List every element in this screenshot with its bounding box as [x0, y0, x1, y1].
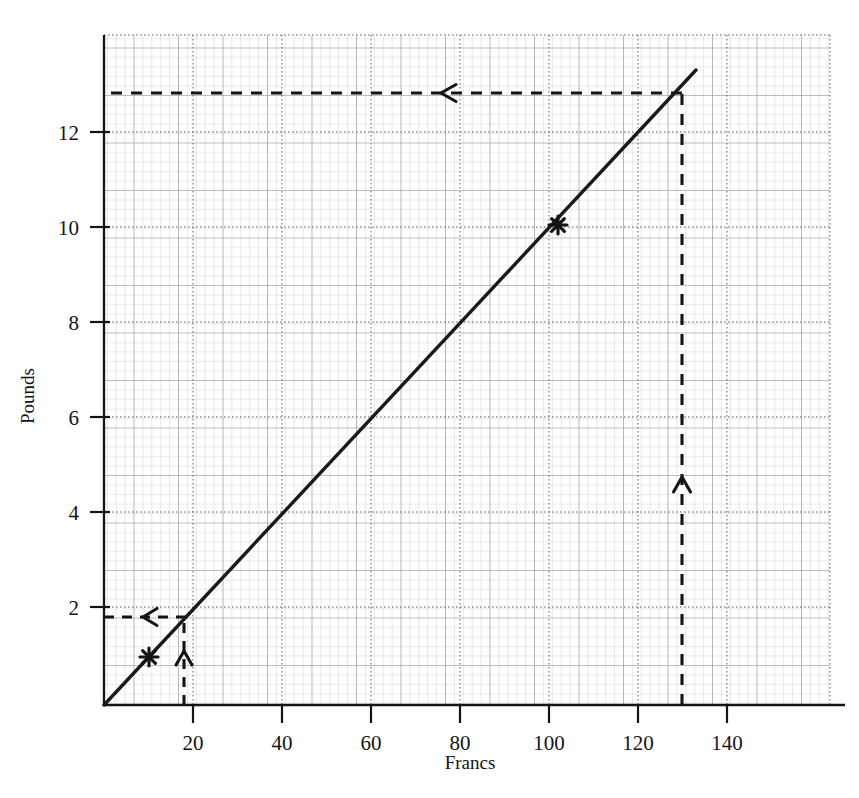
marker-high-star [549, 216, 567, 234]
ytick-label-8: 8 [69, 311, 80, 335]
xtick-label-120: 120 [622, 731, 654, 755]
conversion-graph: 12 10 8 6 4 2 20 40 60 80 100 120 140 Fr… [0, 0, 859, 798]
marker-low-star [140, 648, 158, 666]
y-axis-title: Pounds [17, 368, 38, 424]
xtick-label-60: 60 [361, 731, 382, 755]
xtick-label-40: 40 [272, 731, 293, 755]
graph-paper-grid [104, 35, 830, 705]
x-axis-title: Francs [445, 752, 496, 773]
ytick-label-12: 12 [58, 121, 79, 145]
ytick-label-4: 4 [69, 501, 80, 525]
xtick-label-100: 100 [533, 731, 565, 755]
ytick-label-10: 10 [58, 216, 79, 240]
xtick-label-140: 140 [711, 731, 743, 755]
ytick-label-2: 2 [69, 596, 80, 620]
chart-container: 12 10 8 6 4 2 20 40 60 80 100 120 140 Fr… [0, 0, 859, 798]
xtick-label-20: 20 [183, 731, 204, 755]
ytick-label-6: 6 [69, 406, 80, 430]
